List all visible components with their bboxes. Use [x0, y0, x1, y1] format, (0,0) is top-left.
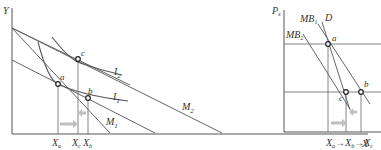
- y-axis-label: Y: [3, 5, 10, 16]
- label-mb2: MB2: [285, 29, 303, 41]
- point-b: [86, 96, 91, 101]
- x-sequence-label: Xa→Xb→Xc: [325, 137, 373, 149]
- label-a: a: [60, 72, 65, 82]
- tick-xc: Xc: [71, 137, 81, 149]
- indifference-curve-i2: [52, 37, 122, 75]
- label-a-right: a: [332, 33, 337, 43]
- label-m2: M2: [181, 101, 194, 115]
- label-b: b: [88, 86, 93, 96]
- arrow-right-head-icon: [73, 120, 78, 128]
- y-axis-label-right: Px: [271, 5, 281, 17]
- right-panel: Px a c b MB1 D MB2 Xa→Xb→Xc: [271, 5, 381, 149]
- label-b-right: b: [364, 79, 369, 89]
- point-b-right: [359, 90, 364, 95]
- label-m1: M1: [105, 116, 118, 130]
- point-a: [56, 82, 61, 87]
- label-d: D: [324, 12, 333, 23]
- point-c: [76, 57, 81, 62]
- tick-xb: Xb: [82, 137, 92, 149]
- left-panel: Y X a c b I2 I1 M1 M2: [3, 5, 369, 149]
- point-a-right: [326, 42, 331, 47]
- label-c: c: [81, 48, 85, 58]
- label-i1: I1: [112, 91, 120, 105]
- label-c-right: c: [339, 93, 343, 103]
- economics-diagram: Y X a c b I2 I1 M1 M2: [0, 0, 381, 150]
- point-c-right: [344, 90, 349, 95]
- arrow-left-head-icon: [78, 109, 82, 117]
- budget-line-c: [12, 28, 130, 85]
- budget-line-m1: [12, 60, 155, 133]
- label-mb1: MB1: [299, 13, 317, 25]
- tick-xa: Xa: [51, 137, 61, 149]
